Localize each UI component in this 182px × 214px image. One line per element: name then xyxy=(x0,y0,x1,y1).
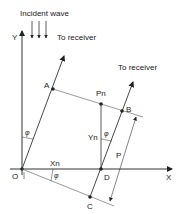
point-a-label: A xyxy=(44,81,50,90)
to-receiver-label-2: To receiver xyxy=(118,63,157,72)
y-axis-label: Y xyxy=(12,33,18,42)
to-receiver-label-1: To receiver xyxy=(57,33,96,42)
angle-arc-3 xyxy=(101,139,112,141)
diagram: Incident wave Y X O To receiver A Pn Yn … xyxy=(0,0,182,214)
p-dimension xyxy=(110,117,136,201)
incident-wave-label: Incident wave xyxy=(20,9,69,18)
point-b-label: B xyxy=(126,105,131,114)
phi-label-2: φ xyxy=(54,172,59,180)
point-d xyxy=(99,167,103,171)
angle-arc-1 xyxy=(22,137,33,139)
phi-label-1: φ xyxy=(25,129,30,137)
point-c xyxy=(88,195,92,199)
p-label: P xyxy=(116,151,121,160)
point-b xyxy=(120,109,124,113)
point-d-label: D xyxy=(104,173,110,182)
xn-label: Xn xyxy=(50,159,60,168)
point-c-label: C xyxy=(87,202,93,211)
point-o-label: O xyxy=(12,172,18,181)
point-pn-label: Pn xyxy=(96,89,106,98)
wavefront-line-bottom xyxy=(22,169,114,206)
ray-oa xyxy=(22,56,64,169)
angle-arc-2 xyxy=(51,169,53,181)
incident-wave-arrows-icon xyxy=(32,21,46,38)
yn-label: Yn xyxy=(88,133,98,142)
x-axis-label: X xyxy=(166,173,172,182)
phi-label-3: φ xyxy=(104,130,109,138)
